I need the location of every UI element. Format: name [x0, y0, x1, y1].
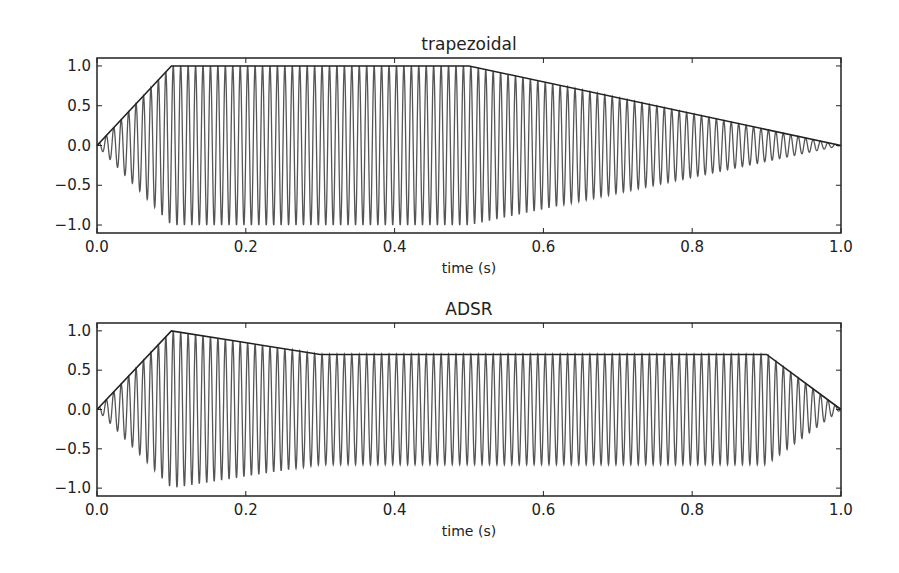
- x-tick-label: 0.0: [85, 238, 109, 256]
- x-tick-label: 0.2: [234, 238, 258, 256]
- x-tick-label: 1.0: [829, 501, 853, 519]
- y-tick-label: 1.0: [67, 57, 91, 75]
- y-tick-label: 0.5: [67, 97, 91, 115]
- x-tick-label: 0.4: [383, 238, 407, 256]
- y-tick-label: 0.0: [67, 401, 91, 419]
- plot-title: ADSR: [445, 299, 493, 319]
- x-tick-label: 0.0: [85, 501, 109, 519]
- x-tick-label: 0.6: [531, 501, 555, 519]
- x-axis-label: time (s): [442, 523, 496, 539]
- y-tick-label: 0.5: [67, 361, 91, 379]
- x-tick-label: 0.2: [234, 501, 258, 519]
- x-tick-label: 0.8: [680, 238, 704, 256]
- x-tick-label: 0.8: [680, 501, 704, 519]
- x-axis-label: time (s): [442, 260, 496, 276]
- x-tick-label: 0.4: [383, 501, 407, 519]
- plot-title: trapezoidal: [421, 34, 516, 54]
- trapezoidal-plot: trapezoidal 0.00.20.40.60.81.0 1.00.50.0…: [55, 34, 853, 276]
- figure: trapezoidal 0.00.20.40.60.81.0 1.00.50.0…: [0, 0, 899, 573]
- x-tick-label: 1.0: [829, 238, 853, 256]
- y-tick-label: −0.5: [55, 176, 91, 194]
- y-tick-label: 0.0: [67, 137, 91, 155]
- x-tick-label: 0.6: [531, 238, 555, 256]
- y-tick-label: 1.0: [67, 322, 91, 340]
- y-tick-label: −1.0: [55, 479, 91, 497]
- adsr-plot: ADSR 0.00.20.40.60.81.0 1.00.50.0−0.5−1.…: [55, 299, 853, 539]
- y-tick-label: −1.0: [55, 216, 91, 234]
- modulated-sine-line: [97, 66, 841, 225]
- y-tick-label: −0.5: [55, 440, 91, 458]
